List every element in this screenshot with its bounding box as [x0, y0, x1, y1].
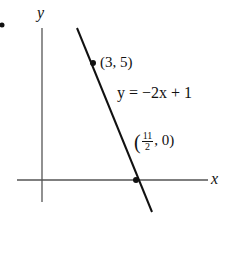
- equation-label: y = −2x + 1: [117, 85, 192, 101]
- label-rest: , 0): [154, 132, 174, 148]
- y-axis-label: y: [37, 5, 44, 21]
- x-axis-label: x: [211, 171, 218, 187]
- fraction: 112: [142, 131, 154, 152]
- fraction-denominator: 2: [145, 142, 150, 152]
- open-paren: (: [134, 131, 141, 153]
- stray-dot: [0, 23, 5, 28]
- point-label-3-5: (3, 5): [100, 55, 133, 70]
- point-label-intercept: (112, 0): [134, 131, 174, 152]
- graph-canvas: [0, 0, 228, 254]
- point-x-intercept: [133, 177, 139, 183]
- point-3-5: [90, 60, 96, 66]
